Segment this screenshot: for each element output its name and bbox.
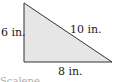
triangle-figure <box>0 0 113 82</box>
figure-caption: Scalene <box>0 76 40 82</box>
hypotenuse-label: 10 in. <box>70 24 102 35</box>
left-side-label: 6 in. <box>1 27 26 38</box>
bottom-side-label: 8 in. <box>58 66 83 77</box>
